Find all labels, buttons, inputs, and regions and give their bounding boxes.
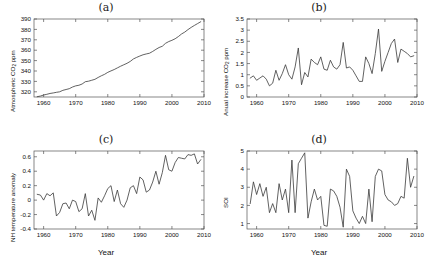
x-tick-label: 1970	[69, 99, 83, 106]
y-tick-label: 4	[241, 165, 245, 172]
y-tick-label: 340	[21, 67, 32, 74]
y-tick-label: 330	[21, 78, 32, 85]
y-tick-label: 5	[241, 147, 245, 154]
x-tick-label: 2010	[410, 231, 424, 238]
panel-c-x-axis-label: Year	[0, 248, 212, 257]
y-tick-label: -0.4	[20, 225, 31, 232]
y-tick-label: 1.5	[235, 60, 244, 67]
y-tick-label: 0	[28, 196, 32, 203]
y-tick-label: 1	[241, 71, 245, 78]
data-series-line	[250, 29, 414, 86]
panel-d-x-axis-label: Year	[213, 248, 425, 257]
x-tick-label: 1990	[133, 99, 147, 106]
x-tick-label: 1970	[282, 99, 296, 106]
y-tick-label: 1	[241, 220, 245, 227]
x-tick-label: 2000	[165, 231, 179, 238]
x-tick-label: 1970	[69, 231, 83, 238]
panel-b: (b) Anual increase CO2 ppm 00.511.522.53…	[213, 0, 425, 132]
y-tick-label: 0.2	[22, 182, 31, 189]
y-tick-label: 0.5	[235, 82, 244, 89]
x-tick-label: 2000	[378, 99, 392, 106]
y-tick-label: 3.5	[235, 15, 244, 22]
panel-d: (d) SOI 12345196019701980199020002010 Ye…	[213, 132, 425, 264]
x-tick-label: 1980	[101, 99, 115, 106]
y-tick-label: 2	[241, 49, 245, 56]
y-tick-label: -0.2	[20, 211, 31, 218]
y-tick-label: 2	[241, 202, 245, 209]
data-series-line	[37, 154, 201, 220]
y-tick-label: 390	[21, 15, 32, 22]
x-tick-label: 2010	[197, 231, 211, 238]
y-tick-label: 360	[21, 46, 32, 53]
x-tick-label: 1970	[282, 231, 296, 238]
panel-c: (c) NH temperature anomaly -0.4-0.200.20…	[0, 132, 212, 264]
panel-c-plot: -0.4-0.200.20.40.61960197019801990200020…	[0, 132, 212, 264]
y-tick-label: 3	[241, 183, 245, 190]
data-series-line	[37, 22, 201, 97]
x-tick-label: 1960	[37, 231, 51, 238]
y-tick-label: 3	[241, 26, 245, 33]
x-tick-label: 1960	[250, 231, 264, 238]
panel-d-plot: 12345196019701980199020002010	[213, 132, 425, 264]
y-tick-label: 350	[21, 57, 32, 64]
data-series-line	[250, 153, 414, 227]
x-tick-label: 2000	[165, 99, 179, 106]
y-tick-label: 0.6	[22, 153, 31, 160]
panel-b-plot: 00.511.522.533.5196019701980199020002010	[213, 0, 425, 132]
x-tick-label: 1980	[314, 99, 328, 106]
y-tick-label: 0.4	[22, 167, 31, 174]
y-tick-label: 380	[21, 26, 32, 33]
panel-a: (a) Atmospheric CO2 ppm 3203303403503603…	[0, 0, 212, 132]
x-tick-label: 2010	[197, 99, 211, 106]
x-tick-label: 1990	[133, 231, 147, 238]
x-tick-label: 1980	[101, 231, 115, 238]
x-tick-label: 1990	[346, 99, 360, 106]
panel-a-plot: 3203303403503603703803901960197019801990…	[0, 0, 212, 132]
x-tick-label: 1980	[314, 231, 328, 238]
y-tick-label: 2.5	[235, 37, 244, 44]
x-tick-label: 2010	[410, 99, 424, 106]
y-tick-label: 320	[21, 88, 32, 95]
x-tick-label: 1990	[346, 231, 360, 238]
x-tick-label: 1960	[37, 99, 51, 106]
y-tick-label: 370	[21, 36, 32, 43]
figure-root: (a) Atmospheric CO2 ppm 3203303403503603…	[0, 0, 425, 264]
x-tick-label: 2000	[378, 231, 392, 238]
x-tick-label: 1960	[250, 99, 264, 106]
y-tick-label: 0	[241, 93, 245, 100]
